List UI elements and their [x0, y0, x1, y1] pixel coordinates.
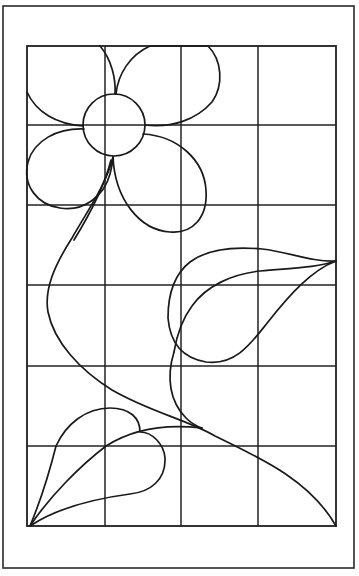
- petal-top-left: [100, 46, 115, 94]
- bottom-left-leaf-midrib: [30, 427, 202, 526]
- petal-top-left-outer: [27, 92, 83, 126]
- bottom-left-leaf: [30, 408, 165, 526]
- right-leaf-group: [168, 248, 336, 428]
- flower-grid-drawing: [0, 0, 359, 576]
- flower: [27, 46, 220, 232]
- pattern-canvas: [0, 0, 359, 576]
- bottom-left-leaf-group: [30, 408, 202, 526]
- petal-bottom-right: [113, 134, 206, 232]
- right-leaf-stem: [170, 352, 202, 428]
- petal-bottom-left: [27, 129, 113, 209]
- grid: [27, 46, 336, 526]
- petal-top-right: [116, 46, 220, 126]
- outer-frame: [3, 6, 354, 568]
